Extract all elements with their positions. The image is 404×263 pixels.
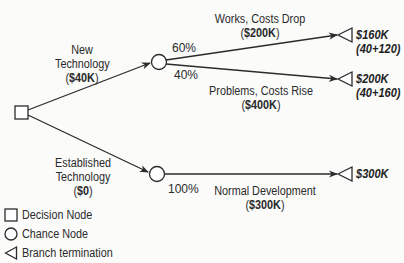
probability-works: 60% <box>172 41 196 55</box>
terminal-value-works: $160K (40+120) <box>356 28 401 56</box>
outcome-cost: ($200K) <box>211 26 310 40</box>
terminal-value: $200K <box>356 72 401 86</box>
branch-cost: ($0) <box>52 184 115 198</box>
terminal-formula: (40+160) <box>356 86 401 100</box>
branch-label-line1: Established <box>52 156 115 170</box>
branch-cost-value: $0 <box>77 184 89 198</box>
outcome-label-normal: Normal Development ($300K) <box>209 184 321 212</box>
outcome-cost: ($300K) <box>209 198 321 212</box>
probability-problems: 40% <box>174 68 198 82</box>
terminal-formula: (40+120) <box>356 42 401 56</box>
legend-item-decision-node: Decision Node <box>4 206 100 224</box>
square-icon <box>4 208 18 222</box>
outcome-cost-value: $300K <box>249 198 281 212</box>
outcome-label-text: Works, Costs Drop <box>211 12 310 26</box>
outcome-cost-value: $400K <box>245 98 277 112</box>
legend-label: Decision Node <box>22 208 92 222</box>
terminal-works <box>338 28 352 42</box>
branch-label-line1: New <box>55 43 109 57</box>
branch-cost-value: $40K <box>69 71 95 85</box>
branch-label-established-technology: Established Technology ($0) <box>52 156 115 198</box>
terminal-normal <box>338 167 352 181</box>
branch-label-line2: Technology <box>52 170 115 184</box>
branch-label-new-technology: New Technology ($40K) <box>55 43 109 85</box>
triangle-left-icon <box>4 246 18 260</box>
outcome-label-works: Works, Costs Drop ($200K) <box>211 12 310 40</box>
circle-icon <box>4 227 18 241</box>
outcome-label-text: Normal Development <box>209 184 321 198</box>
branch-cost: ($40K) <box>55 71 109 85</box>
outcome-label-problems: Problems, Costs Rise ($400K) <box>205 84 317 112</box>
outcome-cost: ($400K) <box>205 98 317 112</box>
decision-node <box>15 106 28 119</box>
terminal-value: $300K <box>356 167 389 181</box>
terminal-problems <box>338 72 352 86</box>
terminal-value-normal: $300K <box>356 167 389 181</box>
probability-normal: 100% <box>168 182 199 196</box>
branch-label-line2: Technology <box>55 57 109 71</box>
legend-label: Chance Node <box>22 227 88 241</box>
legend-item-branch-termination: Branch termination <box>4 244 123 262</box>
terminal-value-problems: $200K (40+160) <box>356 72 401 100</box>
legend-label: Branch termination <box>22 246 113 260</box>
decision-tree-diagram: New Technology ($40K) Established Techno… <box>0 0 404 263</box>
chance-node-new-technology <box>152 55 167 70</box>
outcome-cost-value: $200K <box>244 26 276 40</box>
terminal-value: $160K <box>356 28 401 42</box>
chance-node-established-technology <box>150 167 165 182</box>
legend-item-chance-node: Chance Node <box>4 225 95 243</box>
outcome-label-text: Problems, Costs Rise <box>205 84 317 98</box>
